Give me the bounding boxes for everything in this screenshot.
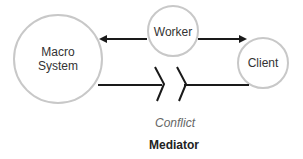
macro-label-line2: System bbox=[38, 59, 78, 73]
macro-label-line1: Macro bbox=[38, 45, 78, 59]
conflict-label: Conflict bbox=[155, 116, 195, 130]
client-label: Client bbox=[248, 56, 279, 70]
worker-label: Worker bbox=[154, 25, 192, 39]
diagram-canvas bbox=[0, 0, 303, 159]
mediator-label: Mediator bbox=[149, 138, 199, 152]
macro-system-label: Macro System bbox=[38, 45, 78, 73]
